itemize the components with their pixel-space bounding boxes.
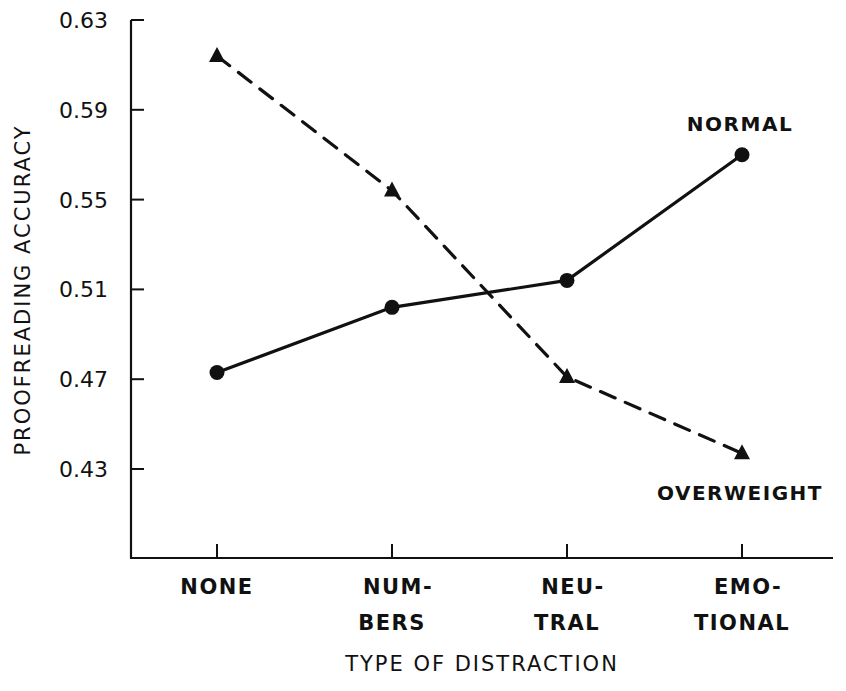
circle-marker-icon — [385, 300, 400, 315]
triangle-marker-icon — [384, 182, 400, 197]
y-tick-label: 0.55 — [59, 188, 108, 213]
series-label-normal: NORMAL — [687, 112, 793, 136]
line-chart: 0.430.470.510.550.590.63 NONENUM-BERSNEU… — [0, 0, 846, 691]
axes — [130, 20, 833, 558]
series-line-overweight — [217, 56, 742, 453]
series-lines — [217, 56, 742, 453]
y-axis-title: PROOFREADING ACCURACY — [11, 124, 35, 455]
circle-marker-icon — [735, 147, 750, 162]
x-tick-label: TIONAL — [694, 611, 790, 635]
y-tick-label: 0.47 — [59, 367, 108, 392]
series-label-overweight: OVERWEIGHT — [657, 481, 823, 505]
y-tick-label: 0.59 — [59, 98, 108, 123]
x-tick-label: NEU- — [541, 575, 605, 599]
circle-marker-icon — [560, 273, 575, 288]
triangle-marker-icon — [209, 47, 225, 62]
x-tick-label: EMO- — [714, 575, 782, 599]
x-tick-label: NONE — [180, 575, 253, 599]
x-tick-label: BERS — [358, 611, 426, 635]
y-tick-label: 0.51 — [59, 277, 108, 302]
x-tick-label: TRAL — [534, 611, 600, 635]
y-tick-label: 0.43 — [59, 457, 108, 482]
circle-marker-icon — [210, 365, 225, 380]
series-markers — [209, 47, 750, 459]
x-axis-title: TYPE OF DISTRACTION — [344, 652, 619, 676]
y-tick-label: 0.63 — [59, 8, 108, 33]
series-line-normal — [217, 155, 742, 373]
x-tick-label: NUM- — [363, 575, 433, 599]
